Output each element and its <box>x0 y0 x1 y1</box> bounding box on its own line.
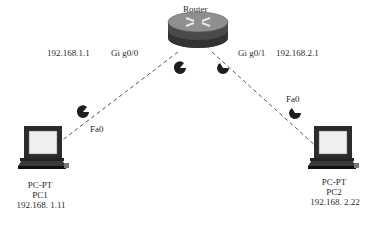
port-indicator-router-g01 <box>217 63 229 74</box>
pc1-name-label: PC1 <box>10 190 70 200</box>
pc1-port-label: Fa0 <box>90 124 104 134</box>
pc1-icon[interactable] <box>18 126 69 169</box>
pc2-name-label: PC2 <box>304 187 364 197</box>
router-icon[interactable] <box>168 12 228 48</box>
router-g01-ip-label: 192.168.2.1 <box>276 48 319 58</box>
router-g00-interface-label: Gi g0/0 <box>111 48 138 58</box>
pc2-type-label: PC-PT <box>304 177 364 187</box>
router-label: Router <box>183 4 208 14</box>
pc2-icon[interactable] <box>308 126 359 169</box>
pc1-type-label: PC-PT <box>10 180 70 190</box>
pc1-ip-label: 192.168. 1.11 <box>6 200 76 210</box>
port-indicator-pc1-fa0 <box>77 105 89 118</box>
router-g00-ip-label: 192.168.1.1 <box>47 48 90 58</box>
link-router-pc1[interactable] <box>52 52 178 148</box>
link-router-pc2[interactable] <box>212 52 318 148</box>
pc2-port-label: Fa0 <box>286 94 300 104</box>
port-indicator-router-g00 <box>174 61 186 74</box>
router-g01-interface-label: Gi g0/1 <box>238 48 265 58</box>
port-indicator-pc2-fa0 <box>289 108 301 119</box>
pc2-ip-label: 192.168. 2.22 <box>300 197 370 207</box>
